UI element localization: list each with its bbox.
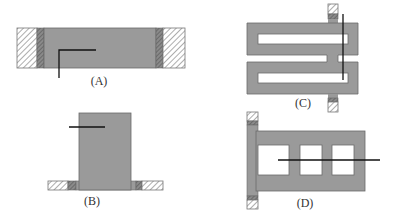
panel-a-right-anchor xyxy=(156,28,163,68)
panel-b-left-anchor xyxy=(68,181,76,190)
panel-a-beam xyxy=(44,28,156,68)
panel-a-left-anchor xyxy=(37,28,44,68)
panel-c-label: (C) xyxy=(295,96,311,110)
panel-b-label: (B) xyxy=(84,194,100,208)
diagram-canvas: (A) (B) (C) (D) xyxy=(0,0,398,224)
panel-b-right-support xyxy=(142,181,163,190)
panel-c-bottom-neck xyxy=(328,94,338,98)
panel-d: (D) xyxy=(247,112,380,210)
panel-d-bottom-support xyxy=(247,200,258,209)
panel-a-label: (A) xyxy=(91,74,108,88)
panel-c-slot-top xyxy=(258,34,348,44)
panel-a-right-support xyxy=(163,28,185,68)
panel-c-top-support xyxy=(328,4,338,14)
panel-b: (B) xyxy=(48,113,163,208)
panel-d-top-anchor xyxy=(247,121,258,125)
panel-b-right-anchor xyxy=(136,181,142,190)
panel-d-top-support xyxy=(247,112,258,121)
panel-c-bottom-support xyxy=(328,102,338,112)
panel-a: (A) xyxy=(17,28,185,88)
panel-c-bottom-anchor xyxy=(328,98,338,102)
panel-c-slot-bottom xyxy=(258,73,348,83)
panel-d-bottom-anchor xyxy=(247,196,258,200)
panel-c-top-anchor xyxy=(328,14,338,19)
panel-b-block xyxy=(79,113,131,190)
panel-c: (C) xyxy=(247,4,358,112)
panel-d-label: (D) xyxy=(297,196,314,210)
panel-a-left-support xyxy=(17,28,37,68)
panel-b-left-support xyxy=(48,181,68,190)
